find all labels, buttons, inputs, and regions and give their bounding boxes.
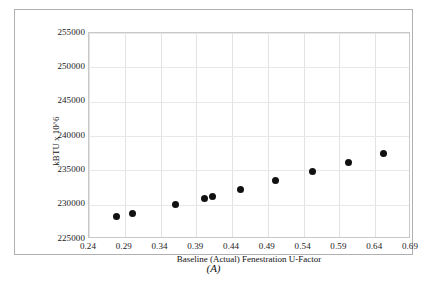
y-axis-tick-label: 230000	[19, 199, 85, 208]
gridline-horizontal	[89, 170, 409, 171]
x-axis-tick-label: 0.34	[140, 241, 180, 251]
plot-area	[88, 32, 410, 238]
figure-container: kBTU x 10^6 2250002300002350002400002450…	[0, 0, 427, 287]
x-axis-tick-label: 0.54	[283, 241, 323, 251]
data-point	[201, 195, 208, 202]
y-axis-tick-labels: 2250002300002350002400002450002500002550…	[15, 32, 85, 238]
gridline-vertical	[304, 33, 305, 237]
data-point	[209, 193, 216, 200]
gridline-horizontal	[89, 102, 409, 103]
y-axis-tick-label: 255000	[19, 28, 85, 37]
gridline-horizontal	[89, 205, 409, 206]
x-axis-tick-label: 0.39	[175, 241, 215, 251]
gridline-vertical	[375, 33, 376, 237]
y-axis-tick-label: 250000	[19, 62, 85, 71]
gridline-vertical	[125, 33, 126, 237]
data-point	[237, 186, 244, 193]
x-axis-tick-label: 0.69	[390, 241, 427, 251]
x-axis-tick-labels: 0.240.290.340.390.440.490.540.590.640.69	[88, 241, 410, 255]
data-point	[380, 150, 387, 157]
y-axis-tick-label: 245000	[19, 96, 85, 105]
gridline-vertical	[196, 33, 197, 237]
figure-caption: (A)	[0, 262, 427, 274]
data-point	[172, 201, 179, 208]
x-axis-tick-label: 0.44	[211, 241, 251, 251]
data-point	[309, 168, 316, 175]
gridline-horizontal	[89, 33, 409, 34]
gridline-vertical	[232, 33, 233, 237]
gridline-horizontal	[89, 136, 409, 137]
gridline-vertical	[89, 33, 90, 237]
data-point	[113, 213, 120, 220]
gridline-vertical	[339, 33, 340, 237]
y-axis-tick-label: 240000	[19, 131, 85, 140]
gridline-horizontal	[89, 67, 409, 68]
x-axis-tick-label: 0.64	[354, 241, 394, 251]
data-point	[272, 177, 279, 184]
chart-frame: kBTU x 10^6 2250002300002350002400002450…	[14, 9, 413, 255]
gridline-vertical	[268, 33, 269, 237]
x-axis-tick-label: 0.49	[247, 241, 287, 251]
x-axis-tick-label: 0.59	[318, 241, 358, 251]
x-axis-tick-label: 0.24	[68, 241, 108, 251]
y-axis-tick-label: 235000	[19, 165, 85, 174]
data-point	[345, 159, 352, 166]
x-axis-tick-label: 0.29	[104, 241, 144, 251]
data-point	[129, 210, 136, 217]
gridline-vertical	[161, 33, 162, 237]
